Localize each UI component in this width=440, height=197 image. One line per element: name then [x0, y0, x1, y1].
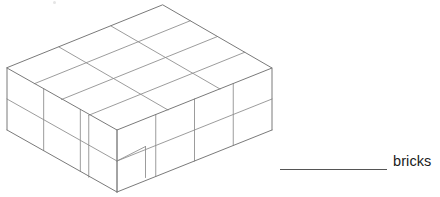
answer-area: bricks: [280, 140, 440, 170]
brick-stack-svg: [0, 0, 290, 197]
worksheet-canvas: bricks: [0, 0, 440, 197]
answer-blank-line[interactable]: [280, 151, 387, 170]
answer-unit-label: bricks: [393, 153, 431, 170]
isometric-brick-stack-figure: [0, 0, 290, 197]
